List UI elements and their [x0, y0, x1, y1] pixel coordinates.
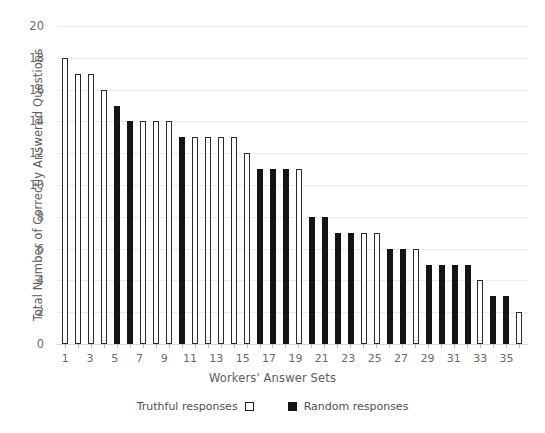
bar-17[interactable] — [270, 169, 276, 344]
x-axis-tick-label — [250, 351, 262, 369]
bar-slot — [85, 26, 98, 344]
bar-20[interactable] — [309, 217, 315, 344]
x-axis-tick-label: 35 — [500, 351, 514, 369]
x-axis-tick-label — [514, 351, 526, 369]
bar-16[interactable] — [257, 169, 263, 344]
x-axis-tick-label: 23 — [341, 351, 355, 369]
x-axis-tick-mark — [208, 344, 209, 348]
x-axis-tick-slot — [435, 344, 448, 350]
x-axis-tick-label — [382, 351, 394, 369]
x-axis-tick-slot — [318, 344, 331, 350]
bar-slot — [435, 26, 448, 344]
bar-3[interactable] — [88, 74, 94, 344]
y-axis-tick-label: 10 — [29, 178, 44, 192]
x-axis-tick-label — [302, 351, 314, 369]
x-axis-tick-mark — [389, 344, 390, 348]
x-axis-tick-slot — [448, 344, 461, 350]
bar-11[interactable] — [192, 137, 198, 344]
bar-slot — [500, 26, 513, 344]
bar-28[interactable] — [413, 249, 419, 344]
bar-slot — [331, 26, 344, 344]
x-axis-tick-mark — [337, 344, 338, 348]
x-axis-tick-mark — [415, 344, 416, 348]
bar-slot — [98, 26, 111, 344]
x-axis-tick-mark — [285, 344, 286, 348]
y-axis-tick-label: 20 — [29, 19, 44, 33]
x-axis-tick-label: 13 — [209, 351, 223, 369]
x-axis-tick-slot — [85, 344, 98, 350]
y-axis-tick-label: 8 — [37, 210, 44, 224]
x-axis-tick-label — [276, 351, 288, 369]
x-axis-tick-label — [223, 351, 235, 369]
x-axis-tick-mark — [402, 344, 403, 348]
x-axis-tick-slot — [137, 344, 150, 350]
bar-26[interactable] — [387, 249, 393, 344]
bar-slot — [72, 26, 85, 344]
x-axis-tick-label: 33 — [473, 351, 487, 369]
bar-14[interactable] — [231, 137, 237, 344]
bar-25[interactable] — [374, 233, 380, 344]
x-axis-tick-label — [329, 351, 341, 369]
x-axis-tick-label: 21 — [315, 351, 329, 369]
y-axis-tick-label: 6 — [37, 242, 44, 256]
bar-8[interactable] — [153, 121, 159, 344]
bar-6[interactable] — [127, 121, 133, 344]
bar-33[interactable] — [477, 280, 483, 344]
x-axis-tick-label: 25 — [368, 351, 382, 369]
y-axis-tick-labels: 20181614121086420 — [0, 26, 50, 344]
x-axis-tick-slot — [254, 344, 267, 350]
bar-29[interactable] — [426, 265, 432, 345]
bar-36[interactable] — [516, 312, 522, 344]
x-axis-tick-label — [487, 351, 499, 369]
bar-18[interactable] — [283, 169, 289, 344]
bar-slot — [150, 26, 163, 344]
x-axis-tick-label — [96, 351, 108, 369]
x-axis-tick-mark — [272, 344, 273, 348]
bar-4[interactable] — [101, 90, 107, 344]
bar-5[interactable] — [114, 106, 120, 345]
x-axis-tick-mark — [247, 344, 248, 348]
bar-slot — [59, 26, 72, 344]
bar-chart: Total Number of Correctly Answered Quest… — [0, 0, 545, 433]
bar-slot — [215, 26, 228, 344]
x-axis-tick-label: 1 — [59, 351, 71, 369]
bar-slot — [357, 26, 370, 344]
x-axis-tick-slot — [292, 344, 305, 350]
bar-23[interactable] — [348, 233, 354, 344]
bar-15[interactable] — [244, 153, 250, 344]
x-axis-tick-label — [197, 351, 209, 369]
bar-31[interactable] — [452, 265, 458, 345]
x-axis-tick-label: 3 — [84, 351, 96, 369]
bar-13[interactable] — [218, 137, 224, 344]
bar-slot — [228, 26, 241, 344]
bar-10[interactable] — [179, 137, 185, 344]
bar-slot — [111, 26, 124, 344]
bar-2[interactable] — [75, 74, 81, 344]
bar-1[interactable] — [62, 58, 68, 344]
x-axis-tick-mark — [428, 344, 429, 348]
bar-22[interactable] — [335, 233, 341, 344]
bar-35[interactable] — [503, 296, 509, 344]
bar-30[interactable] — [439, 265, 445, 345]
x-axis-tick-mark — [182, 344, 183, 348]
bar-27[interactable] — [400, 249, 406, 344]
bar-slot — [383, 26, 396, 344]
bar-7[interactable] — [140, 121, 146, 344]
x-axis-tick-mark — [506, 344, 507, 348]
x-axis-tick-label — [171, 351, 183, 369]
x-axis-tick-label: 17 — [262, 351, 276, 369]
bar-24[interactable] — [361, 233, 367, 344]
bar-slot — [163, 26, 176, 344]
bar-19[interactable] — [296, 169, 302, 344]
bar-21[interactable] — [322, 217, 328, 344]
bar-12[interactable] — [205, 137, 211, 344]
x-axis-tick-mark — [130, 344, 131, 348]
x-axis-tick-mark — [363, 344, 364, 348]
x-axis-tick-label — [461, 351, 473, 369]
bar-32[interactable] — [465, 265, 471, 345]
bar-slot — [474, 26, 487, 344]
x-axis-tick-label: 31 — [447, 351, 461, 369]
bar-9[interactable] — [166, 121, 172, 344]
bar-34[interactable] — [490, 296, 496, 344]
x-axis-tick-mark — [143, 344, 144, 348]
